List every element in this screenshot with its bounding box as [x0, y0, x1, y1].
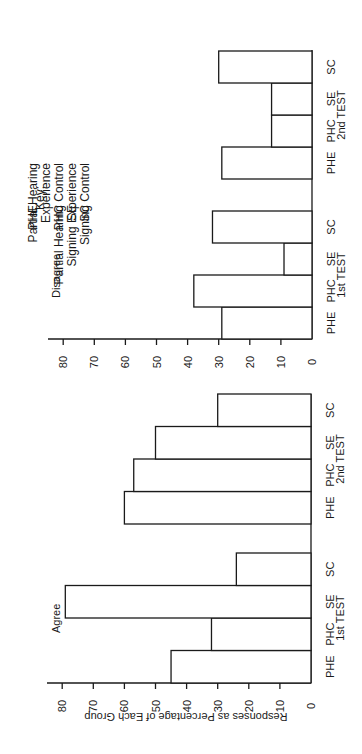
tick-label: 0 — [305, 703, 317, 709]
tick-label: 10 — [274, 700, 286, 712]
tick-label: 40 — [181, 700, 193, 712]
agree-panel: 01020304050607080PHEPHCSESC1st TESTPHEPH… — [47, 394, 346, 712]
disagree-panel: 01020304050607080PHEPHCSESC1st TESTPHEPH… — [48, 50, 347, 368]
tick-label: 80 — [57, 356, 69, 368]
bar-se-test1 — [65, 586, 311, 619]
group-label: 1st TEST — [334, 595, 346, 641]
category-label: PHE — [325, 312, 337, 335]
tick-label: 70 — [87, 700, 99, 712]
tick-label: 60 — [119, 356, 131, 368]
tick-label: 30 — [212, 700, 224, 712]
agree-title: Agree — [50, 604, 62, 633]
bar-se-test2 — [156, 427, 312, 460]
tick-label: 40 — [182, 356, 194, 368]
bar-phe-test1 — [222, 307, 312, 339]
tick-label: 60 — [118, 700, 130, 712]
tick-label: 10 — [275, 356, 287, 368]
bar-sc-test1 — [236, 553, 311, 586]
bar-phc-test1 — [211, 618, 311, 651]
tick-label: 70 — [88, 356, 100, 368]
bar-phc-test1 — [194, 275, 312, 307]
key-desc-se: Signing Experience — [65, 163, 79, 267]
tick-label: 50 — [150, 700, 162, 712]
bar-sc-test2 — [219, 51, 312, 83]
category-label: PHE — [324, 655, 336, 678]
group-label: 1st TEST — [335, 252, 347, 298]
disagree-title: Disagree — [50, 254, 62, 298]
key-desc-sc: Signing Control — [78, 163, 92, 245]
tick-label: 80 — [56, 700, 68, 712]
category-label: PHE — [324, 496, 336, 519]
bar-phe-test2 — [124, 492, 311, 525]
bar-phe-test1 — [171, 651, 311, 684]
y-axis-label: Responses as Percentage of Each Group — [84, 711, 287, 723]
key-desc-phe-1: Partial Hearing — [26, 163, 40, 242]
group-label: 2nd TEST — [334, 434, 346, 484]
bar-se-test1 — [284, 243, 312, 275]
key-desc-phe-2: Experience — [39, 163, 53, 223]
group-label: 2nd TEST — [335, 90, 347, 140]
bar-sc-test1 — [212, 211, 312, 243]
tick-label: 20 — [244, 356, 256, 368]
category-label: SC — [325, 219, 337, 234]
tick-label: 20 — [243, 700, 255, 712]
category-label: SC — [325, 59, 337, 74]
bar-phc-test2 — [272, 115, 312, 147]
bar-sc-test2 — [218, 394, 311, 427]
bar-phe-test2 — [222, 147, 312, 179]
tick-label: 50 — [151, 356, 163, 368]
category-label: SC — [324, 403, 336, 418]
tick-label: 0 — [306, 359, 318, 365]
category-label: PHE — [325, 152, 337, 175]
rotated-bar-charts: Key: PHE Partial Hearing Experience PHC … — [0, 0, 362, 754]
bar-phc-test2 — [134, 459, 311, 492]
tick-label: 30 — [213, 356, 225, 368]
bar-se-test2 — [272, 83, 312, 115]
category-label: SC — [324, 562, 336, 577]
